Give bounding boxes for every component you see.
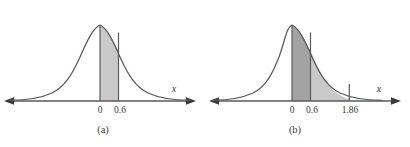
- panel-b-plot: [205, 0, 410, 147]
- tick-label-1.86: 1.86: [342, 106, 359, 116]
- axis-arrow-left-icon: [4, 97, 14, 105]
- tick-label-0.6: 0.6: [114, 106, 126, 116]
- axis-arrow-right-icon: [391, 97, 401, 105]
- panel-a: x 0 0.6 (a): [0, 0, 205, 147]
- axis-arrow-right-icon: [186, 97, 196, 105]
- tick-label-0: 0: [290, 106, 295, 116]
- panel-caption-a: (a): [97, 125, 109, 136]
- tick-label-0.6: 0.6: [306, 106, 318, 116]
- panel-b: x 0 0.6 1.86 (b): [205, 0, 410, 147]
- x-axis-label: x: [172, 84, 176, 94]
- panel-caption-b: (b): [289, 125, 301, 136]
- tick-label-0: 0: [98, 106, 103, 116]
- x-axis-label: x: [377, 84, 381, 94]
- normal-distribution-figure: x 0 0.6 (a): [0, 0, 410, 147]
